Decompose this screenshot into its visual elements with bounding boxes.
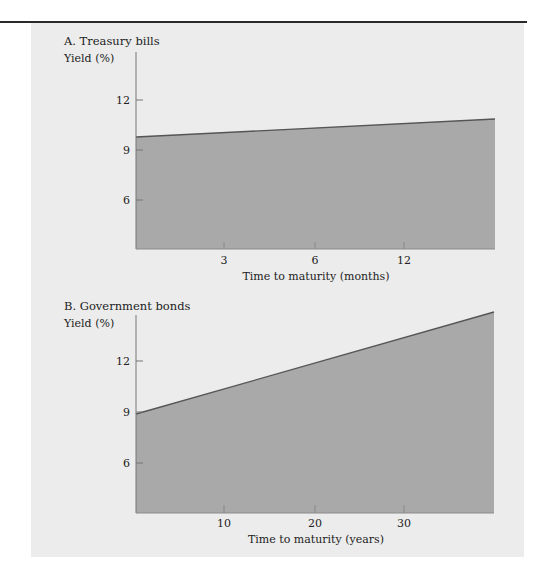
x-tick-label: 6 bbox=[312, 254, 319, 267]
y-tick-label: 6 bbox=[123, 194, 130, 207]
y-axis-label: Yield (%) bbox=[63, 317, 114, 330]
yield-curve-figure: A. Treasury bills Yield (%) 12 9 6 3 6 1… bbox=[0, 0, 552, 585]
x-axis-label: Time to maturity (months) bbox=[242, 270, 389, 283]
yield-area bbox=[136, 119, 495, 249]
x-tick-label: 20 bbox=[308, 517, 322, 530]
x-tick-label: 30 bbox=[397, 517, 411, 530]
y-tick-label: 9 bbox=[123, 406, 130, 419]
y-tick-label: 9 bbox=[123, 144, 130, 157]
chart-government-bonds: B. Government bonds Yield (%) 12 9 6 10 … bbox=[63, 299, 494, 546]
chart-treasury-bills: A. Treasury bills Yield (%) 12 9 6 3 6 1… bbox=[63, 34, 495, 283]
y-axis-label: Yield (%) bbox=[63, 52, 114, 65]
chart-title: A. Treasury bills bbox=[63, 34, 160, 48]
x-tick-label: 10 bbox=[217, 517, 231, 530]
x-tick-label: 12 bbox=[397, 254, 411, 267]
y-tick-label: 12 bbox=[116, 94, 130, 107]
y-tick-label: 12 bbox=[116, 355, 130, 368]
yield-area bbox=[136, 312, 494, 513]
chart-title: B. Government bonds bbox=[64, 299, 191, 313]
y-tick-label: 6 bbox=[123, 457, 130, 470]
x-axis-label: Time to maturity (years) bbox=[248, 533, 384, 546]
x-tick-label: 3 bbox=[221, 254, 228, 267]
